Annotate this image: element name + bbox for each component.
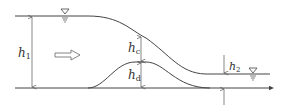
hd-label: hd <box>128 68 141 83</box>
h1-dimension: h1 <box>18 17 32 87</box>
h2-label: h2 <box>229 60 241 74</box>
flow-over-hump-diagram: h1 hc hd h2 <box>0 0 288 110</box>
flow-direction-arrow-icon <box>55 50 80 60</box>
h1-label: h1 <box>18 46 31 61</box>
hump-profile <box>88 62 210 88</box>
h2-dimension: h2 <box>224 55 241 105</box>
hc-label: hc <box>128 41 141 56</box>
